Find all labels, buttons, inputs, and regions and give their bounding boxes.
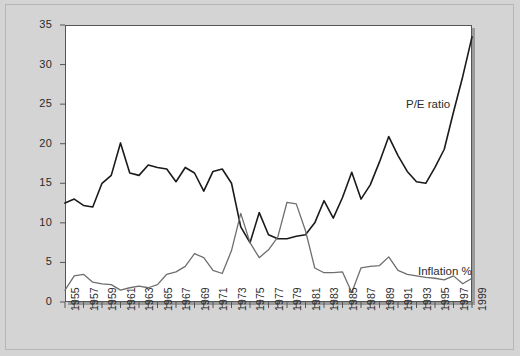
x-tick-label: 1985 [347, 287, 359, 311]
x-tick-label: 1989 [384, 287, 396, 311]
y-tick-label: 25 [26, 97, 52, 109]
x-tick-label: 1981 [310, 287, 322, 311]
x-tick-label: 1967 [180, 287, 192, 311]
series-line-inflation [65, 202, 472, 292]
series-lines [65, 37, 472, 293]
y-tick-label: 10 [26, 216, 52, 228]
x-tick-label: 1975 [254, 287, 266, 311]
y-tick-label: 20 [26, 137, 52, 149]
x-tick-label: 1999 [476, 287, 488, 311]
x-tick-label: 1965 [162, 287, 174, 311]
x-tick-label: 1969 [199, 287, 211, 311]
x-tick-label: 1973 [236, 287, 248, 311]
chart-figure: 05101520253035 1955195719591961196319651… [0, 0, 520, 356]
x-tick-label: 1955 [69, 287, 81, 311]
x-tick-label: 1993 [421, 287, 433, 311]
x-tick-label: 1979 [291, 287, 303, 311]
series-line-pe-ratio [65, 37, 472, 243]
x-tick-label: 1987 [365, 287, 377, 311]
x-tick-label: 1997 [458, 287, 470, 311]
y-tick-label: 0 [26, 295, 52, 307]
y-tick-label: 15 [26, 176, 52, 188]
x-tick-label: 1961 [125, 287, 137, 311]
x-tick-label: 1971 [217, 287, 229, 311]
x-tick-label: 1995 [439, 287, 451, 311]
x-tick-label: 1991 [402, 287, 414, 311]
series-label-inflation: Inflation % [418, 265, 472, 277]
y-tick-label: 5 [26, 255, 52, 267]
y-tick-label: 30 [26, 58, 52, 70]
x-tick-label: 1983 [328, 287, 340, 311]
series-label-pe-ratio: P/E ratio [406, 98, 450, 110]
y-tick-label: 35 [26, 18, 52, 30]
x-tick-label: 1963 [143, 287, 155, 311]
y-axis-ticks [60, 25, 65, 302]
x-tick-label: 1959 [106, 287, 118, 311]
x-tick-label: 1957 [88, 287, 100, 311]
x-tick-label: 1977 [273, 287, 285, 311]
